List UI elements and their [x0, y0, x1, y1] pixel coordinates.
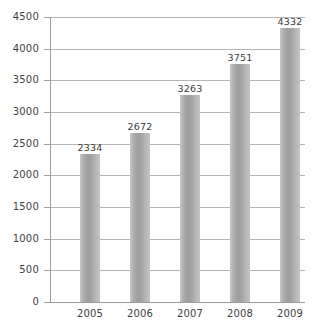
x-tick-label-2009: 2009 — [267, 308, 313, 319]
bar-2005[interactable] — [80, 154, 100, 302]
y-tick-label-0: 0 — [0, 297, 39, 307]
y-tick-1000 — [44, 239, 50, 240]
y-tick-500 — [44, 270, 50, 271]
x-tick-label-2006: 2006 — [117, 308, 163, 319]
y-tick-label-3500: 3500 — [0, 75, 39, 85]
y-tick-label-1000: 1000 — [0, 234, 39, 244]
bar-2006[interactable] — [130, 133, 150, 302]
y-tick-label-2000: 2000 — [0, 170, 39, 180]
y-tick-2500 — [44, 144, 50, 145]
gridline-3500 — [50, 80, 305, 81]
y-tick-label-500: 500 — [0, 265, 39, 275]
x-tick-label-2005: 2005 — [67, 308, 113, 319]
y-tick-label-3000: 3000 — [0, 107, 39, 117]
value-label-2005: 2334 — [67, 143, 113, 153]
y-tick-3000 — [44, 112, 50, 113]
y-axis-line — [50, 17, 51, 303]
x-tick-label-2007: 2007 — [167, 308, 213, 319]
y-tick-2000 — [44, 175, 50, 176]
y-tick-3500 — [44, 80, 50, 81]
y-tick-label-1500: 1500 — [0, 202, 39, 212]
gridline-4000 — [50, 49, 305, 50]
y-tick-label-4500: 4500 — [0, 12, 39, 22]
value-label-2007: 3263 — [167, 84, 213, 94]
y-tick-4500 — [44, 17, 50, 18]
y-tick-label-4000: 4000 — [0, 44, 39, 54]
y-tick-1500 — [44, 207, 50, 208]
value-label-2006: 2672 — [117, 122, 163, 132]
bar-chart: 4500 4000 3500 3000 2500 2000 1500 1000 … — [0, 0, 319, 336]
y-tick-label-2500: 2500 — [0, 139, 39, 149]
bar-2007[interactable] — [180, 95, 200, 302]
gridline-0 — [50, 302, 305, 303]
bar-2009[interactable] — [280, 28, 300, 302]
plot-area — [50, 17, 305, 302]
value-label-2008: 3751 — [217, 53, 263, 63]
bar-2008[interactable] — [230, 64, 250, 302]
y-tick-4000 — [44, 49, 50, 50]
gridline-3000 — [50, 112, 305, 113]
y-tick-0 — [44, 302, 50, 303]
x-tick-label-2008: 2008 — [217, 308, 263, 319]
value-label-2009: 4332 — [267, 17, 313, 27]
